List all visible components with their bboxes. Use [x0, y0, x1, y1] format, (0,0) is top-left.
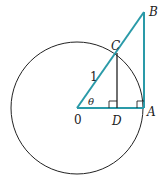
label-theta: θ: [88, 96, 94, 107]
label-D: D: [111, 114, 122, 128]
right-angle-D: [109, 101, 117, 108]
unit-circle-diagram: B C 1 θ A 0 D: [0, 0, 168, 179]
label-radius: 1: [90, 70, 98, 84]
label-origin: 0: [74, 113, 82, 127]
segment-OB: [77, 12, 144, 108]
label-A: A: [146, 105, 156, 119]
label-C: C: [111, 39, 120, 53]
label-B: B: [148, 5, 158, 19]
